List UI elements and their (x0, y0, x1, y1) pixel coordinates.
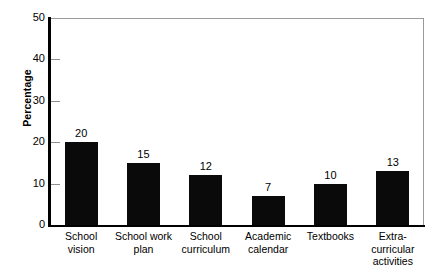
bar-value-label: 13 (387, 157, 399, 168)
bar-group[interactable]: 15 (127, 18, 160, 225)
x-axis-label-line: curriculum (175, 243, 237, 256)
x-axis-label: Textbooks (299, 230, 361, 243)
x-axis-label-line: vision (50, 243, 112, 256)
bar[interactable] (314, 184, 347, 225)
x-axis-label-line: Textbooks (299, 230, 361, 243)
y-axis-tick-label: 20 (19, 136, 45, 147)
x-axis-label-line: Extra- (362, 230, 424, 243)
x-axis-label-line: Academic (237, 230, 299, 243)
bar-value-label: 12 (200, 161, 212, 172)
y-axis-tick-label: 40 (19, 53, 45, 64)
bar-value-label: 7 (265, 182, 271, 193)
x-axis-label-line: calendar (237, 243, 299, 256)
y-axis-tick-label: 50 (19, 12, 45, 23)
bar[interactable] (127, 163, 160, 225)
bar[interactable] (376, 171, 409, 225)
bar-value-label: 20 (75, 128, 87, 139)
x-axis-label: Extra-curricularactivities (362, 230, 424, 268)
x-axis-label: Schoolcurriculum (175, 230, 237, 255)
bar-group[interactable]: 10 (314, 18, 347, 225)
y-axis-tick-label: 10 (19, 178, 45, 189)
x-axis-labels: SchoolvisionSchool workplanSchoolcurricu… (50, 230, 424, 279)
x-axis-label: School workplan (112, 230, 174, 255)
x-axis-label-line: activities (362, 255, 424, 268)
y-axis-tick-label: 0 (19, 219, 45, 230)
y-axis-tick-label: 30 (19, 95, 45, 106)
bars-layer: 20151271013 (50, 18, 424, 225)
x-axis-label-line: curricular (362, 243, 424, 256)
bar-chart: Percentage 01020304050 20151271013 Schoo… (0, 0, 440, 279)
bar[interactable] (252, 196, 285, 225)
x-axis-label-line: School (175, 230, 237, 243)
x-axis-label-line: School work (112, 230, 174, 243)
bar-group[interactable]: 20 (65, 18, 98, 225)
bar-group[interactable]: 12 (189, 18, 222, 225)
bar-value-label: 15 (137, 149, 149, 160)
bar-value-label: 10 (324, 170, 336, 181)
bar-group[interactable]: 7 (252, 18, 285, 225)
bar[interactable] (65, 142, 98, 225)
x-axis-label-line: plan (112, 243, 174, 256)
bar[interactable] (189, 175, 222, 225)
x-axis-label-line: School (50, 230, 112, 243)
x-axis-label: Academiccalendar (237, 230, 299, 255)
x-axis-label: Schoolvision (50, 230, 112, 255)
bar-group[interactable]: 13 (376, 18, 409, 225)
